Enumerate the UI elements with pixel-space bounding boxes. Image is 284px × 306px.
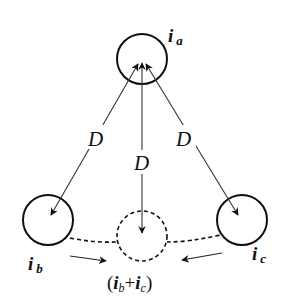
dashed-connector-b (70, 238, 117, 242)
dashed-connector-c (167, 235, 220, 242)
edge-a-bc-label: D (133, 151, 149, 175)
node-c-circle (217, 195, 267, 245)
node-c-label: ic (252, 243, 266, 266)
node-b-circle (23, 195, 73, 245)
edge-a-b-label: D (87, 127, 103, 151)
flow-arrow-right (70, 256, 106, 261)
node-a-label: ia (168, 25, 183, 48)
current-flow-diagram: ia ib ic D D D (ib+ic) (0, 0, 284, 306)
node-bc-label: (ib+ic) (107, 272, 152, 295)
flow-arrow-left (182, 253, 222, 260)
node-b-label: ib (28, 253, 43, 276)
edge-a-c-label: D (175, 127, 191, 151)
